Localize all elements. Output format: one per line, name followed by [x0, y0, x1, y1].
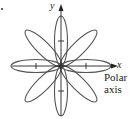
polar-axis-label-line2: axis: [104, 83, 127, 95]
origin-point: [59, 64, 63, 68]
y-axis-label: y: [50, 1, 54, 11]
y-axis-arrow-icon: [59, 4, 64, 11]
axes: [12, 8, 114, 116]
x-axis-label: x: [117, 60, 121, 70]
polar-axis-label-line1: Polar: [104, 71, 127, 83]
polar-axis-label: Polar axis: [104, 71, 127, 95]
